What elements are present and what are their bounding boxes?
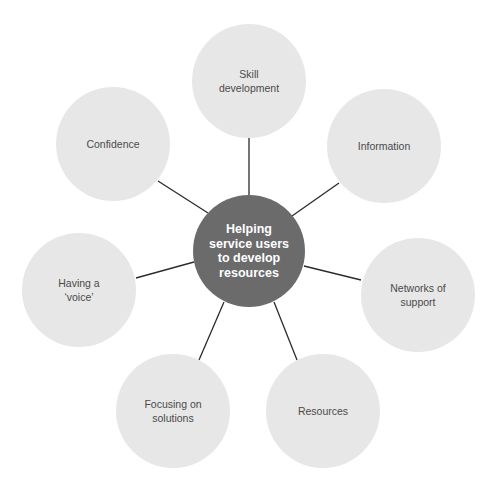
- node-focusing-on-solutions: Focusing on solutions: [116, 354, 230, 468]
- node-skill-development: Skill development: [192, 24, 306, 138]
- node-having-a-voice: Having a ‘voice’: [22, 233, 136, 347]
- node-resources: Resources: [266, 354, 380, 468]
- node-label: Information: [358, 139, 411, 153]
- node-label: Networks of support: [390, 281, 445, 309]
- connector-focusing-on-solutions: [199, 302, 224, 360]
- connector-having-a-voice: [136, 262, 194, 278]
- node-information: Information: [327, 89, 441, 203]
- node-confidence: Confidence: [56, 87, 170, 201]
- connector-information: [292, 183, 339, 216]
- diagram-canvas: Skill development Information Networks o…: [0, 0, 497, 499]
- node-networks-of-support: Networks of support: [361, 238, 475, 352]
- node-label: Focusing on solutions: [144, 397, 201, 425]
- connector-confidence: [158, 181, 208, 213]
- hub-label: Helping service users to develop resourc…: [209, 222, 289, 280]
- node-label: Skill development: [219, 67, 279, 95]
- node-label: Confidence: [86, 137, 139, 151]
- node-label: Having a ‘voice’: [58, 276, 99, 304]
- connector-resources: [274, 302, 297, 360]
- center-hub: Helping service users to develop resourc…: [193, 195, 305, 307]
- node-label: Resources: [298, 404, 348, 418]
- connector-networks-of-support: [304, 266, 361, 280]
